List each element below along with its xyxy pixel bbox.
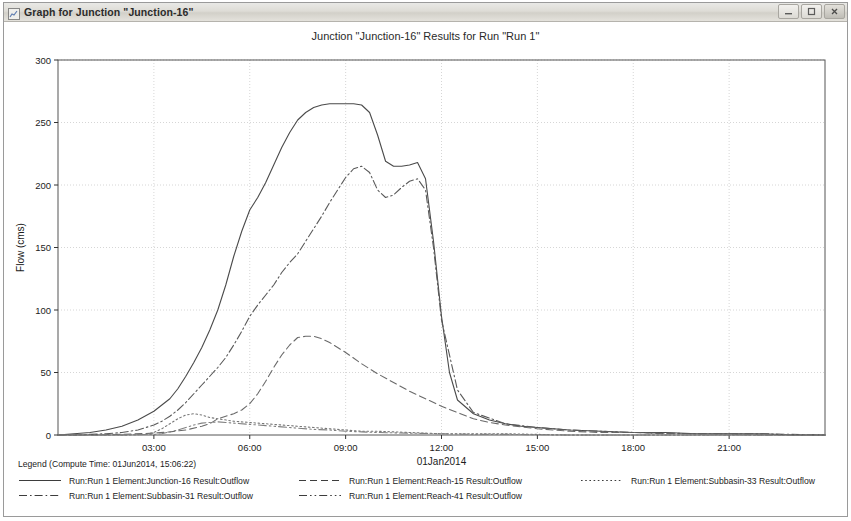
y-tick-label: 0 — [46, 430, 51, 441]
legend-line-swatch — [18, 476, 62, 485]
x-tick-label: 15:00 — [525, 442, 549, 453]
x-tick-label: 03:00 — [142, 442, 166, 453]
legend-item-label: Run:Run 1 Element:Reach-41 Result:Outflo… — [349, 491, 522, 501]
graph-window-icon — [8, 6, 20, 18]
x-tick-label: 09:00 — [334, 442, 358, 453]
legend-item[interactable]: Run:Run 1 Element:Junction-16 Result:Out… — [18, 473, 298, 488]
legend-line-swatch — [580, 476, 624, 485]
gridlines — [58, 60, 825, 435]
window-titlebar[interactable]: Graph for Junction "Junction-16" — [4, 3, 847, 22]
legend-item[interactable]: Run:Run 1 Element:Subbasin-33 Result:Out… — [580, 473, 836, 488]
legend-column: Run:Run 1 Element:Subbasin-33 Result:Out… — [580, 473, 836, 503]
legend-item[interactable]: Run:Run 1 Element:Reach-15 Result:Outflo… — [298, 473, 580, 488]
x-tick-label: 06:00 — [238, 442, 262, 453]
close-button[interactable] — [824, 4, 845, 19]
x-tick-label: 12:00 — [430, 442, 454, 453]
legend-item-label: Run:Run 1 Element:Subbasin-33 Result:Out… — [631, 476, 815, 486]
window-controls — [778, 4, 845, 19]
legend-item-label: Run:Run 1 Element:Reach-15 Result:Outflo… — [349, 476, 522, 486]
y-tick-label: 300 — [35, 55, 51, 66]
x-tick-label: 21:00 — [717, 442, 741, 453]
legend-item[interactable]: Run:Run 1 Element:Subbasin-31 Result:Out… — [18, 488, 298, 503]
tick-labels: 05010015020025030003:0006:0009:0012:0015… — [15, 55, 741, 468]
legend-line-swatch — [18, 491, 62, 500]
legend-item[interactable]: Run:Run 1 Element:Reach-41 Result:Outflo… — [298, 488, 580, 503]
legend-title: Legend (Compute Time: 01Jun2014, 15:06:2… — [18, 459, 836, 469]
flow-hydrograph-chart: 05010015020025030003:0006:0009:0012:0015… — [4, 22, 847, 517]
legend-column: Run:Run 1 Element:Junction-16 Result:Out… — [18, 473, 298, 503]
chart-legend: Legend (Compute Time: 01Jun2014, 15:06:2… — [18, 459, 836, 503]
graph-window: Graph for Junction "Junction-16" Junctio… — [3, 2, 848, 517]
legend-line-swatch — [298, 476, 342, 485]
y-tick-label: 200 — [35, 180, 51, 191]
y-tick-label: 100 — [35, 305, 51, 316]
y-tick-label: 150 — [35, 242, 51, 253]
maximize-button[interactable] — [801, 4, 822, 19]
chart-client-area: Junction "Junction-16" Results for Run "… — [4, 22, 847, 516]
legend-item-label: Run:Run 1 Element:Junction-16 Result:Out… — [69, 476, 249, 486]
y-tick-label: 50 — [40, 367, 51, 378]
x-tick-label: 18:00 — [621, 442, 645, 453]
y-axis-title: Flow (cms) — [15, 223, 26, 272]
legend-column: Run:Run 1 Element:Reach-15 Result:Outflo… — [298, 473, 580, 503]
legend-columns: Run:Run 1 Element:Junction-16 Result:Out… — [18, 473, 836, 503]
y-tick-label: 250 — [35, 117, 51, 128]
legend-item-label: Run:Run 1 Element:Subbasin-31 Result:Out… — [69, 491, 253, 501]
minimize-button[interactable] — [778, 4, 799, 19]
window-title: Graph for Junction "Junction-16" — [24, 6, 194, 18]
legend-line-swatch — [298, 491, 342, 500]
axes — [54, 60, 825, 439]
